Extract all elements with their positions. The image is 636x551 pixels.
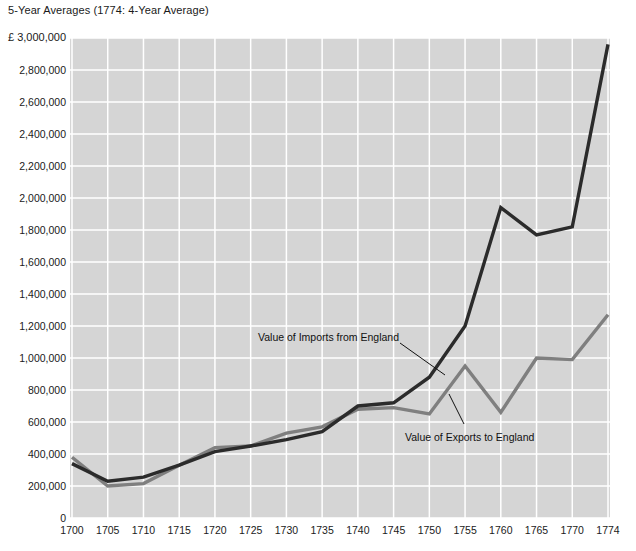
annotation-exports-label: Value of Exports to England (405, 431, 534, 443)
x-axis-tick-label: 1735 (310, 524, 333, 536)
x-axis-tick-label: 1774 (596, 524, 619, 536)
x-axis-tick-label: 1755 (453, 524, 476, 536)
x-axis-tick-label: 1745 (382, 524, 405, 536)
x-axis-tick-label: 1730 (275, 524, 298, 536)
x-axis-tick-labels: 1700170517101715172017251730173517401745… (0, 0, 636, 551)
x-axis-tick-label: 1765 (525, 524, 548, 536)
x-axis-tick-label: 1770 (561, 524, 584, 536)
x-axis-tick-label: 1715 (168, 524, 191, 536)
x-axis-tick-label: 1700 (60, 524, 83, 536)
chart-container: 5-Year Averages (1774: 4-Year Average) £… (0, 0, 636, 551)
x-axis-tick-label: 1720 (203, 524, 226, 536)
x-axis-tick-label: 1760 (489, 524, 512, 536)
x-axis-tick-label: 1710 (132, 524, 155, 536)
annotation-imports-label: Value of Imports from England (258, 331, 399, 343)
x-axis-tick-label: 1740 (346, 524, 369, 536)
x-axis-tick-label: 1725 (239, 524, 262, 536)
x-axis-tick-label: 1705 (96, 524, 119, 536)
x-axis-tick-label: 1750 (418, 524, 441, 536)
